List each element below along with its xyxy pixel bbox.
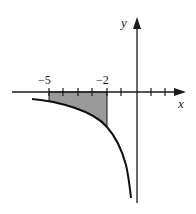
curve [32,99,131,198]
tick-label-minus-5: −5 [38,73,51,87]
x-axis-arrow-icon [174,88,186,96]
x-axis-label: x [177,96,184,111]
y-axis-arrow-icon [133,17,141,29]
graph-figure: −5 −2 x y [0,0,196,214]
tick-label-minus-2: −2 [96,73,109,87]
y-axis-label: y [119,15,127,30]
